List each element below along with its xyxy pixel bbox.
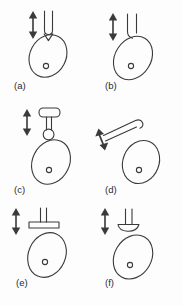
tool-prong-d xyxy=(106,127,137,141)
panel-label-d: (d) xyxy=(105,184,117,195)
figure-canvas: (a) (b) xyxy=(0,0,182,306)
egg-outline xyxy=(116,135,166,189)
tool-probe-b xyxy=(128,14,133,38)
direction-arrow-c xyxy=(23,109,31,136)
tool-blade-f xyxy=(118,225,139,232)
tool-cap-c xyxy=(39,108,60,117)
panel-label-a: (a) xyxy=(14,80,26,91)
direction-arrow-b xyxy=(109,13,117,41)
tool-loop-c xyxy=(43,129,54,140)
nucleus xyxy=(43,63,48,68)
panel-label-c: (c) xyxy=(14,184,25,195)
direction-arrow-a xyxy=(29,11,37,39)
nucleus xyxy=(136,167,141,172)
panel-label-e: (e) xyxy=(16,277,28,288)
egg-outline xyxy=(24,133,77,191)
tool-probe-a xyxy=(45,11,53,35)
nucleus xyxy=(42,259,47,264)
direction-arrow-d xyxy=(95,129,108,151)
nucleus xyxy=(127,262,132,267)
direction-arrow-e xyxy=(12,208,20,235)
egg-outline xyxy=(22,28,74,84)
panel-label-b: (b) xyxy=(105,80,117,91)
egg-outline xyxy=(21,226,74,283)
direction-arrow-f xyxy=(101,208,109,235)
nucleus xyxy=(46,167,51,172)
nucleus xyxy=(128,63,133,68)
panel-e xyxy=(0,200,91,302)
panel-label-f: (f) xyxy=(105,277,114,288)
tool-plate-e xyxy=(29,222,59,228)
